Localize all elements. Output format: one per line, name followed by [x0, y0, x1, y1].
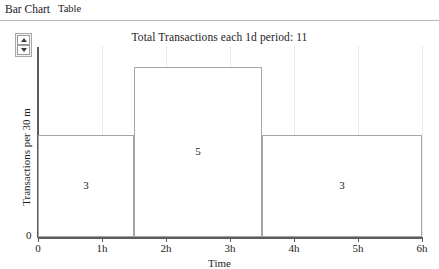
tab-strip: Bar Chart Table	[0, 0, 439, 21]
gridline-vertical	[422, 47, 424, 237]
y-tick-label-0: 0	[26, 229, 32, 241]
x-tick-label: 6h	[407, 242, 437, 254]
x-tick-label: 1h	[87, 242, 117, 254]
x-tick-label: 0	[23, 242, 53, 254]
x-tick-label: 4h	[279, 242, 309, 254]
spinner-increment-button[interactable]	[17, 35, 30, 45]
spinner-decrement-button[interactable]	[17, 45, 30, 55]
bar-value-label: 5	[134, 145, 262, 157]
tab-bar-chart[interactable]: Bar Chart	[5, 2, 50, 16]
triangle-down-icon	[21, 48, 27, 52]
bar-chart-panel: Total Transactions each 1d period: 11 Tr…	[0, 21, 439, 266]
plot-area: 353	[38, 47, 422, 237]
period-spinner[interactable]	[15, 33, 32, 57]
x-tick-label: 3h	[215, 242, 245, 254]
bar-value-label: 3	[38, 179, 134, 191]
chart-title: Total Transactions each 1d period: 11	[0, 31, 439, 43]
x-axis-title: Time	[0, 257, 439, 269]
x-tick-label: 5h	[343, 242, 373, 254]
tab-table[interactable]: Table	[58, 2, 81, 16]
y-axis-title: Transactions per 30 m	[20, 82, 32, 232]
triangle-up-icon	[21, 38, 27, 42]
x-tick-label: 2h	[151, 242, 181, 254]
bar-value-label: 3	[262, 179, 422, 191]
